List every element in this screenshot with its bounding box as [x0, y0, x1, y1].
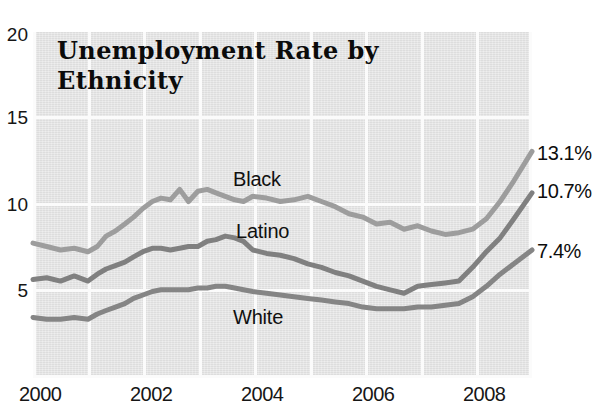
end-value-white: 7.4%: [537, 240, 581, 263]
series-label-white: White: [233, 306, 283, 329]
x-tick-label: 2004: [241, 383, 284, 406]
y-tick-label: 10: [0, 194, 28, 216]
series-label-black: Black: [233, 168, 281, 191]
page-title: Unemployment Rate by Ethnicity: [57, 36, 387, 96]
chart-figure: 20 15 10 5 2000 2002 2004 2006 2008 Unem…: [0, 0, 604, 415]
series-label-latino: Latino: [236, 220, 289, 243]
end-value-latino: 10.7%: [537, 180, 592, 203]
title-line-2: Ethnicity: [57, 66, 387, 96]
x-tick-label: 2006: [352, 383, 395, 406]
x-tick-label: 2008: [463, 383, 506, 406]
x-tick-label: 2000: [19, 383, 62, 406]
x-tick-label: 2002: [130, 383, 173, 406]
y-tick-label: 15: [0, 107, 28, 129]
series-line-latino: [33, 193, 532, 293]
end-value-black: 13.1%: [537, 142, 592, 165]
y-tick-label: 20: [0, 24, 28, 46]
title-line-1: Unemployment Rate by: [57, 36, 387, 66]
y-tick-label: 5: [0, 280, 28, 302]
